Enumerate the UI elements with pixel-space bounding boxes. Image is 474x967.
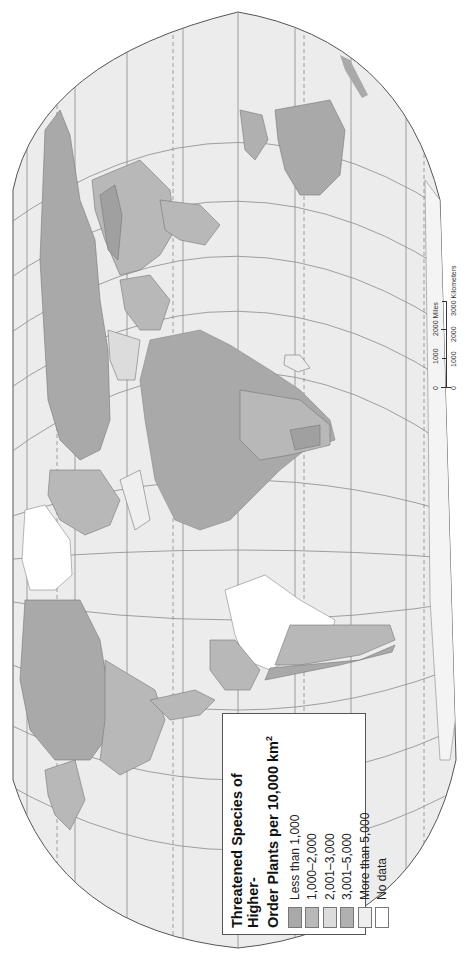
scale-miles-1000: 1000 (432, 348, 439, 364)
legend-swatch (305, 907, 319, 928)
legend-label: More than 5,000 (358, 813, 372, 900)
legend-swatch (288, 907, 302, 928)
legend-item: Less than 1,000 (286, 722, 304, 928)
scale-km-label: 3000 Kilometers (450, 265, 457, 316)
legend-label: 1,000–2,000 (305, 833, 319, 900)
legend: Threatened Species of Higher- Order Plan… (222, 713, 366, 935)
legend-title-line2: Order Plants per 10,000 km (265, 741, 281, 928)
legend-label: Less than 1,000 (288, 815, 302, 900)
scale-bar: 0 1000 2000 Miles 0 1000 2000 3000 Kilom… (424, 262, 474, 392)
legend-item: 2,001–3,000 (321, 722, 339, 928)
legend-swatch (358, 907, 372, 928)
legend-item: 1,000–2,000 (303, 722, 321, 928)
legend-label: 3,001–5,000 (340, 833, 354, 900)
legend-label: 2,001–3,000 (323, 833, 337, 900)
legend-item: No data (373, 722, 391, 928)
scale-km-0: 0 (450, 386, 457, 390)
legend-item: More than 5,000 (356, 722, 374, 928)
legend-swatch (375, 907, 389, 928)
legend-title-line1: Threatened Species of Higher- (229, 773, 261, 928)
scale-miles-label: 2000 Miles (432, 302, 439, 336)
legend-title: Threatened Species of Higher- Order Plan… (229, 722, 281, 928)
legend-swatch (323, 907, 337, 928)
scale-km-1000: 1000 (450, 351, 457, 367)
legend-label: No data (375, 858, 389, 900)
scale-bar-line (446, 302, 447, 388)
scale-km-2000: 2000 (450, 326, 457, 342)
legend-title-superscript: 2 (264, 736, 274, 741)
legend-swatch (340, 907, 354, 928)
legend-item: 3,001–5,000 (338, 722, 356, 928)
scale-miles-0: 0 (432, 386, 439, 390)
